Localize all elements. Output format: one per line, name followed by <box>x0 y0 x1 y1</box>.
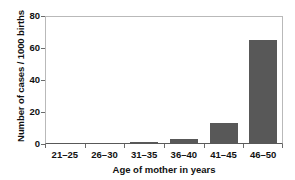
y-axis-tick-label: 40 <box>20 75 40 85</box>
y-axis-tick-label: 0 <box>20 139 40 149</box>
x-axis-tick-mark <box>124 144 125 148</box>
x-axis-tick-label: 46–50 <box>233 149 293 160</box>
bar <box>249 40 277 144</box>
y-axis-tick-label: 80 <box>20 11 40 21</box>
x-axis-title: Age of mother in years <box>45 164 283 175</box>
y-axis-tick-label: 20 <box>20 107 40 117</box>
x-axis-tick-mark <box>204 144 205 148</box>
bar <box>170 139 198 144</box>
bar <box>210 123 238 144</box>
bar-chart: Number of cases / 1000 births 806040200 … <box>0 0 295 180</box>
x-axis-tick-mark <box>164 144 165 148</box>
plot-area <box>45 16 283 144</box>
y-axis-tick-label: 60 <box>20 43 40 53</box>
bar <box>91 143 119 144</box>
x-axis-tick-mark <box>45 144 46 148</box>
x-axis-tick-mark <box>282 144 283 148</box>
bar <box>51 143 79 144</box>
bar <box>130 142 158 144</box>
x-axis-tick-mark <box>243 144 244 148</box>
x-axis-tick-mark <box>85 144 86 148</box>
